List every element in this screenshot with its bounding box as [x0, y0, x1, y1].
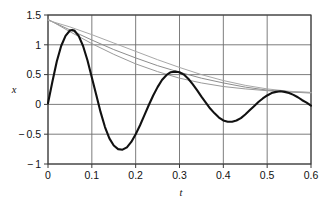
y-tick-label: 1.5 — [26, 9, 41, 21]
y-tick-label: 0.5 — [26, 68, 41, 80]
y-tick-label: 0 — [35, 98, 41, 110]
y-axis-title: x — [11, 84, 17, 95]
x-tick-label: 0.6 — [304, 169, 319, 181]
y-tick-label: − 1 — [27, 158, 41, 170]
x-tick-label: 0 — [45, 169, 51, 181]
x-tick-label: 0.5 — [260, 169, 275, 181]
x-tick-label: 0.3 — [172, 169, 187, 181]
x-tick-label: 0.4 — [216, 169, 231, 181]
x-tick-label: 0.1 — [85, 169, 100, 181]
y-tick-label: 1 — [35, 39, 41, 51]
x-tick-label: 0.2 — [128, 169, 143, 181]
chart-figure: 00.10.20.30.40.50.6 1.510.50− 0.5− 1 x t — [0, 0, 330, 207]
y-tick-label: − 0.5 — [18, 128, 41, 140]
